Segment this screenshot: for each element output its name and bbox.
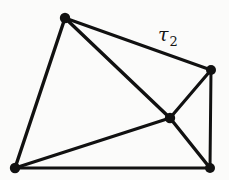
edge-right-to-bottom-right [210, 70, 211, 168]
edges-group [15, 18, 211, 168]
bottom-left-vertex [10, 163, 20, 173]
right-vertex [206, 65, 216, 75]
graph-canvas [0, 0, 229, 180]
top-left-vertex [60, 13, 70, 23]
edge-center-to-bottom-right [170, 118, 210, 168]
tau-subscript: 2 [170, 34, 178, 49]
tau-symbol: τ [158, 23, 169, 45]
center-vertex [165, 113, 175, 123]
bottom-right-vertex [205, 163, 215, 173]
edge-top-left-to-center [65, 18, 170, 118]
edge-top-left-to-bottom-left [15, 18, 65, 168]
edge-top-left-to-right [65, 18, 211, 70]
figure-root: τ2 [0, 0, 229, 180]
edge-center-to-bottom-left [15, 118, 170, 168]
edge-right-to-center [170, 70, 211, 118]
tau-2-label: τ2 [158, 25, 177, 44]
